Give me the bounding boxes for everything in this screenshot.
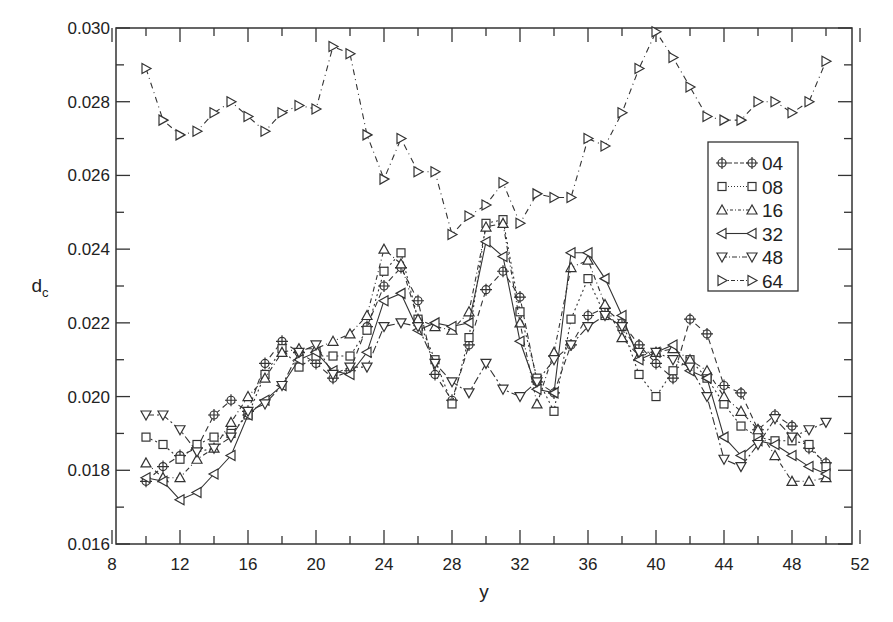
y-tick-label: 0.020 bbox=[67, 388, 110, 407]
data-point-08 bbox=[805, 440, 813, 448]
data-point-64 bbox=[533, 189, 542, 199]
data-point-64 bbox=[363, 130, 372, 140]
data-point-16 bbox=[566, 263, 576, 272]
data-point-48 bbox=[702, 393, 712, 402]
data-point-48 bbox=[515, 393, 525, 402]
data-point-64 bbox=[618, 108, 627, 118]
data-point-64 bbox=[227, 97, 236, 107]
data-point-48 bbox=[192, 448, 202, 457]
data-point-64 bbox=[737, 115, 746, 125]
data-point-08 bbox=[210, 433, 218, 441]
data-point-16 bbox=[600, 299, 610, 308]
data-point-64 bbox=[788, 108, 797, 118]
data-point-48 bbox=[464, 389, 474, 398]
data-point-64 bbox=[142, 64, 151, 74]
data-point-16 bbox=[141, 458, 151, 467]
y-tick-label: 0.022 bbox=[67, 314, 110, 333]
data-point-04 bbox=[684, 313, 696, 325]
data-point-64 bbox=[720, 115, 729, 125]
legend-marker bbox=[718, 183, 726, 191]
data-point-04-cross bbox=[735, 387, 747, 399]
data-point-64 bbox=[635, 64, 644, 74]
data-point-64 bbox=[380, 174, 389, 184]
y-tick-label: 0.016 bbox=[67, 535, 110, 554]
x-tick-label: 16 bbox=[239, 555, 258, 574]
data-point-64 bbox=[295, 100, 304, 110]
data-point-08 bbox=[584, 275, 592, 283]
chart: 812162024283236404448520.0160.0180.0200.… bbox=[0, 0, 893, 622]
data-point-08 bbox=[737, 422, 745, 430]
data-point-04-cross bbox=[429, 368, 441, 380]
y-axis-title-main: d bbox=[31, 275, 42, 296]
data-point-08 bbox=[397, 249, 405, 257]
data-point-48 bbox=[821, 418, 831, 427]
data-point-64 bbox=[601, 141, 610, 151]
data-point-64 bbox=[550, 193, 559, 203]
x-tick-label: 36 bbox=[579, 555, 598, 574]
data-point-08 bbox=[635, 370, 643, 378]
data-point-48 bbox=[804, 426, 814, 435]
y-axis-title: dc bbox=[31, 275, 49, 300]
data-point-04 bbox=[701, 328, 713, 340]
data-point-64 bbox=[278, 108, 287, 118]
series-04 bbox=[140, 262, 832, 488]
data-point-16 bbox=[719, 392, 729, 401]
data-point-04-cross bbox=[718, 380, 730, 392]
data-point-32 bbox=[787, 451, 796, 461]
data-point-04 bbox=[735, 387, 747, 399]
data-point-04-cross bbox=[582, 309, 594, 321]
data-point-48 bbox=[498, 385, 508, 394]
x-axis-title: y bbox=[479, 581, 489, 602]
data-point-16 bbox=[770, 451, 780, 460]
data-point-64 bbox=[397, 134, 406, 144]
x-tick-label: 48 bbox=[783, 555, 802, 574]
data-point-64 bbox=[754, 97, 763, 107]
data-point-64 bbox=[669, 52, 678, 62]
data-point-08 bbox=[346, 352, 354, 360]
data-point-32 bbox=[379, 296, 388, 306]
data-point-64 bbox=[822, 56, 831, 66]
data-point-08 bbox=[652, 393, 660, 401]
data-point-04-cross bbox=[701, 328, 713, 340]
data-point-08 bbox=[329, 352, 337, 360]
data-point-04 bbox=[157, 461, 169, 473]
data-point-04-cross bbox=[157, 461, 169, 473]
data-point-64 bbox=[686, 82, 695, 92]
data-point-64 bbox=[516, 218, 525, 228]
data-point-64 bbox=[448, 229, 457, 239]
x-tick-label: 44 bbox=[715, 555, 734, 574]
legend-label: 08 bbox=[762, 177, 783, 198]
data-point-08 bbox=[363, 326, 371, 334]
data-point-32 bbox=[192, 487, 201, 497]
data-point-32 bbox=[804, 462, 813, 472]
data-point-64 bbox=[210, 108, 219, 118]
data-point-32 bbox=[362, 347, 371, 357]
data-point-08 bbox=[550, 407, 558, 415]
data-point-48 bbox=[379, 323, 389, 332]
data-point-32 bbox=[396, 288, 405, 298]
data-point-32 bbox=[600, 274, 609, 284]
data-point-48 bbox=[447, 378, 457, 387]
data-point-08 bbox=[159, 440, 167, 448]
data-point-04 bbox=[786, 420, 798, 432]
data-point-04 bbox=[582, 309, 594, 321]
data-point-16 bbox=[549, 347, 559, 356]
data-point-64 bbox=[482, 200, 491, 210]
data-point-64 bbox=[193, 126, 202, 136]
data-point-08 bbox=[567, 315, 575, 323]
data-point-48 bbox=[770, 415, 780, 424]
series-line-04 bbox=[146, 268, 826, 482]
x-tick-label: 12 bbox=[171, 555, 190, 574]
data-point-08 bbox=[380, 267, 388, 275]
data-point-16 bbox=[226, 417, 236, 426]
data-point-08 bbox=[448, 400, 456, 408]
data-point-48 bbox=[362, 363, 372, 372]
data-point-04 bbox=[429, 368, 441, 380]
data-point-64 bbox=[465, 211, 474, 221]
data-point-64 bbox=[584, 134, 593, 144]
data-point-64 bbox=[771, 97, 780, 107]
data-point-64 bbox=[312, 104, 321, 114]
data-point-08 bbox=[176, 455, 184, 463]
data-point-64 bbox=[329, 41, 338, 51]
y-tick-label: 0.030 bbox=[67, 19, 110, 38]
